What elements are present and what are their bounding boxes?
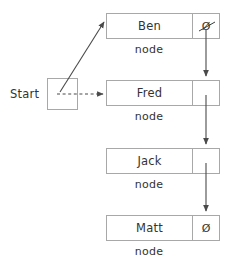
node-ben-pointer-cell[interactable]: Ø <box>192 14 219 38</box>
node-fred[interactable]: Fred <box>106 80 220 106</box>
node-matt-pointer-cell[interactable]: Ø <box>192 216 219 240</box>
node-fred-data: Fred <box>107 81 192 105</box>
linked-list-diagram: Start Ben Ø node Fred node Jack node Mat… <box>0 0 234 275</box>
struck-null-icon: Ø <box>202 21 211 32</box>
node-ben-caption: node <box>106 43 192 56</box>
node-matt-caption: node <box>106 245 192 258</box>
start-pointer-box[interactable] <box>47 78 78 110</box>
null-icon: Ø <box>202 223 211 234</box>
node-jack-caption: node <box>106 178 192 191</box>
node-ben-data: Ben <box>107 14 192 38</box>
node-fred-caption: node <box>106 110 192 123</box>
node-matt[interactable]: Matt Ø <box>106 215 220 241</box>
node-jack-data: Jack <box>107 149 192 173</box>
node-fred-pointer-cell[interactable] <box>192 81 219 105</box>
node-jack[interactable]: Jack <box>106 148 220 174</box>
start-label: Start <box>10 87 39 101</box>
node-matt-data: Matt <box>107 216 192 240</box>
node-ben[interactable]: Ben Ø <box>106 13 220 39</box>
node-jack-pointer-cell[interactable] <box>192 149 219 173</box>
